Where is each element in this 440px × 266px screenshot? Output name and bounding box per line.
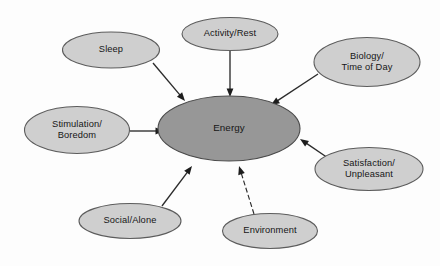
- node-energy[interactable]: Energy: [158, 96, 300, 161]
- node-social-alone[interactable]: Social/Alone: [79, 204, 181, 239]
- node-label: Energy: [213, 122, 245, 133]
- node-label: Environment: [243, 225, 297, 235]
- nodes-layer: SleepActivity/RestBiology/Time of DaySti…: [25, 18, 424, 249]
- edge-line: [306, 143, 328, 158]
- node-sleep[interactable]: Sleep: [63, 32, 160, 68]
- node-activity-rest[interactable]: Activity/Rest: [182, 18, 278, 51]
- node-label: Unpleasant: [345, 169, 393, 179]
- node-label: Sleep: [99, 44, 123, 54]
- node-biology-time-of-day[interactable]: Biology/Time of Day: [314, 38, 420, 87]
- edge-social-to-energy: [162, 166, 192, 206]
- edge-line: [277, 74, 318, 101]
- node-label: Activity/Rest: [204, 28, 257, 38]
- edge-line: [162, 172, 188, 206]
- edge-satisfaction-to-energy: [300, 139, 328, 158]
- arrowhead-icon: [300, 139, 309, 147]
- arrowhead-icon: [238, 166, 244, 175]
- node-environment[interactable]: Environment: [223, 214, 318, 249]
- node-label: Boredom: [58, 130, 97, 140]
- edge-line: [241, 173, 254, 214]
- node-satisfaction-unpleasant[interactable]: Satisfaction/Unpleasant: [315, 148, 423, 191]
- node-label: Stimulation/: [52, 119, 102, 129]
- arrowhead-icon: [184, 166, 192, 175]
- edge-activity-rest-to-energy: [227, 51, 234, 97]
- diagram-canvas: SleepActivity/RestBiology/Time of DaySti…: [0, 0, 440, 266]
- node-label: Social/Alone: [104, 215, 157, 225]
- edge-line: [153, 63, 180, 96]
- energy-concept-map: SleepActivity/RestBiology/Time of DaySti…: [0, 0, 440, 266]
- edge-biology-to-energy: [271, 74, 318, 105]
- node-label: Time of Day: [342, 62, 393, 72]
- edge-sleep-to-energy: [153, 63, 185, 101]
- edge-environment-to-energy: [238, 166, 254, 214]
- node-label: Biology/: [350, 51, 384, 61]
- node-stimulation-boredom[interactable]: Stimulation/Boredom: [25, 107, 130, 154]
- node-label: Satisfaction/: [343, 158, 395, 168]
